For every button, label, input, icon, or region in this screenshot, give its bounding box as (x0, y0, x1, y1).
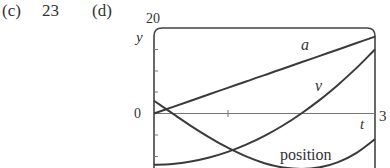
curve-a (154, 37, 375, 114)
curve-v (154, 50, 375, 165)
kinematics-chart (0, 0, 390, 168)
curve-position (154, 101, 375, 168)
